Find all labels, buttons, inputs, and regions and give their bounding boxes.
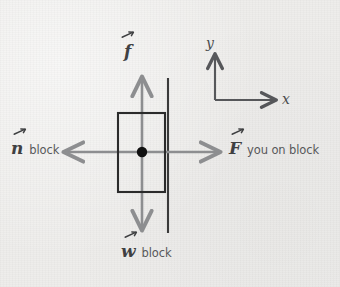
friction-symbol-text: f	[124, 41, 131, 61]
physics-free-body-diagram: f n block F you on block w	[0, 0, 340, 287]
weight-symbol-text: w	[121, 241, 136, 261]
friction-symbol: f	[124, 41, 131, 61]
label-normal-force: n block	[11, 140, 59, 157]
normal-symbol: n	[11, 138, 29, 158]
label-weight-force: w block	[121, 243, 172, 260]
weight-symbol: w	[121, 241, 142, 261]
normal-symbol-text: n	[11, 138, 23, 158]
label-friction-force: f	[124, 43, 131, 60]
axis-x-label: x	[282, 92, 290, 106]
normal-subscript: block	[29, 143, 59, 157]
applied-subscript: you on block	[247, 143, 319, 157]
center-of-mass-dot	[137, 147, 147, 157]
applied-symbol-text: F	[229, 138, 241, 158]
applied-symbol: F	[229, 138, 247, 158]
weight-subscript: block	[142, 246, 172, 260]
axis-y-label: y	[206, 36, 214, 50]
label-applied-force: F you on block	[229, 140, 319, 157]
